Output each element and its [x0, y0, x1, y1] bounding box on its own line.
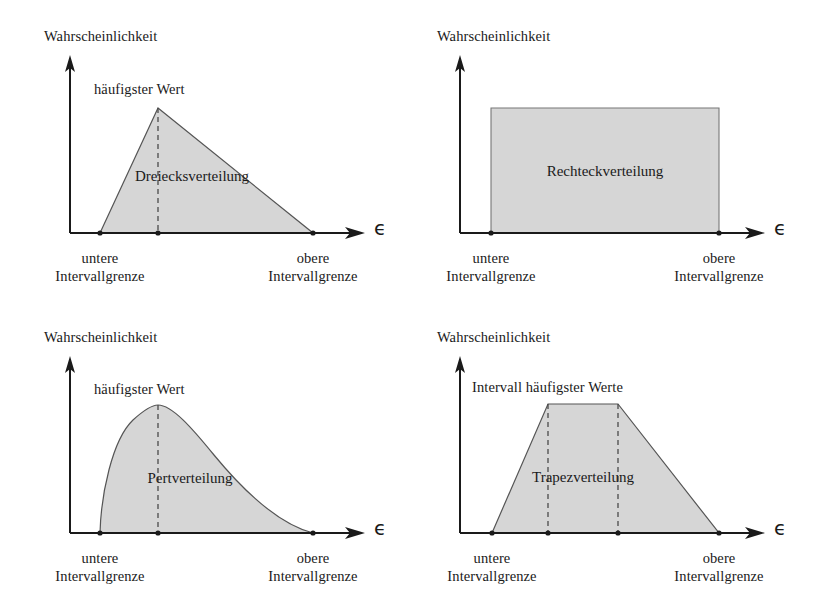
- lower-bound-label-line2: Intervallgrenze: [55, 568, 144, 585]
- distribution-label: Pertverteilung: [148, 470, 233, 487]
- upper-bound-label-line1: obere: [703, 550, 736, 567]
- lower-bound-label-line1: untere: [474, 550, 511, 567]
- mode-interval-left-marker: [545, 530, 550, 535]
- upper-bound-label-line1: obere: [297, 550, 330, 567]
- y-axis-label: Wahrscheinlichkeit: [44, 329, 157, 346]
- lower-bound-label-line1: untere: [473, 250, 510, 267]
- upper-bound-marker: [310, 230, 315, 235]
- y-axis-label: Wahrscheinlichkeit: [437, 28, 550, 45]
- panel-rechteckverteilung: Wahrscheinlichkeit Rechteckverteilung ϵ …: [390, 0, 797, 305]
- upper-bound-marker: [716, 530, 721, 535]
- rectangular-chart-svg: [390, 0, 797, 305]
- epsilon-axis-symbol: ϵ: [374, 216, 386, 240]
- upper-bound-label-line2: Intervallgrenze: [674, 568, 763, 585]
- epsilon-axis-symbol: ϵ: [774, 216, 786, 240]
- epsilon-axis-symbol: ϵ: [374, 516, 386, 540]
- panel-trapezverteilung: Wahrscheinlichkeit Intervall häufigster …: [390, 305, 797, 610]
- lower-bound-label-line1: untere: [82, 550, 119, 567]
- mode-marker: [155, 530, 160, 535]
- mode-marker: [155, 230, 160, 235]
- upper-bound-label-line2: Intervallgrenze: [674, 268, 763, 285]
- distribution-label: Trapezverteilung: [532, 469, 634, 486]
- pert-area: [100, 405, 313, 533]
- distribution-label: Dreiecksverteilung: [135, 168, 249, 185]
- lower-bound-label-line1: untere: [82, 250, 119, 267]
- lower-bound-marker: [97, 230, 102, 235]
- lower-bound-label-line2: Intervallgrenze: [447, 568, 536, 585]
- distribution-label: Rechteckverteilung: [547, 163, 664, 180]
- mode-interval-right-marker: [615, 530, 620, 535]
- mode-label: häufigster Wert: [94, 81, 185, 98]
- upper-bound-label-line1: obere: [297, 250, 330, 267]
- distribution-figure: Wahrscheinlichkeit häufigster Wert Dreie…: [0, 0, 815, 611]
- mode-label: häufigster Wert: [94, 381, 185, 398]
- epsilon-axis-symbol: ϵ: [774, 516, 786, 540]
- y-axis-label: Wahrscheinlichkeit: [44, 28, 157, 45]
- lower-bound-label-line2: Intervallgrenze: [446, 268, 535, 285]
- trapezoidal-chart-svg: [390, 305, 797, 610]
- upper-bound-marker: [716, 230, 721, 235]
- mode-interval-label: Intervall häufigster Werte: [472, 379, 623, 396]
- upper-bound-marker: [310, 530, 315, 535]
- lower-bound-marker: [488, 230, 493, 235]
- upper-bound-label-line2: Intervallgrenze: [268, 268, 357, 285]
- pert-chart-svg: [0, 305, 407, 610]
- triangular-chart-svg: [0, 0, 407, 305]
- y-axis-label: Wahrscheinlichkeit: [437, 329, 550, 346]
- panel-dreiecksverteilung: Wahrscheinlichkeit häufigster Wert Dreie…: [0, 0, 407, 305]
- upper-bound-label-line1: obere: [703, 250, 736, 267]
- lower-bound-marker: [489, 530, 494, 535]
- lower-bound-label-line2: Intervallgrenze: [55, 268, 144, 285]
- upper-bound-label-line2: Intervallgrenze: [268, 568, 357, 585]
- lower-bound-marker: [97, 530, 102, 535]
- panel-pertverteilung: Wahrscheinlichkeit häufigster Wert Pertv…: [0, 305, 407, 610]
